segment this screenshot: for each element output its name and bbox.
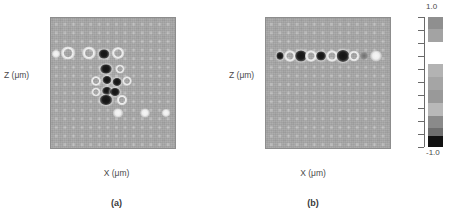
colorbar-track bbox=[428, 17, 443, 147]
field-feature bbox=[122, 76, 132, 86]
x-axis-title-a: X (μm) bbox=[0, 168, 233, 178]
colorbar-segment bbox=[428, 29, 443, 42]
colorbar-segment bbox=[428, 17, 443, 29]
x-axis-title-b: X (μm) bbox=[233, 168, 393, 178]
field-feature bbox=[115, 65, 125, 74]
noise-texture bbox=[266, 18, 390, 148]
heatmap-plot-a: 5 4 3 2 1 0 -1 -2 -3 -4 -5 -5 -4 -3 -2 -… bbox=[50, 17, 176, 149]
field-feature bbox=[82, 46, 97, 59]
panel-b: 5 4 3 2 1 0 -1 -2 -3 -4 -5 -5 -4 -3 -2 -… bbox=[233, 0, 393, 221]
colorbar-segment bbox=[428, 136, 443, 147]
colorbar: 1.0 -1.0 bbox=[404, 0, 465, 221]
field-feature bbox=[276, 52, 283, 60]
field-feature bbox=[100, 64, 112, 73]
colorbar-segment bbox=[428, 77, 443, 90]
field-feature bbox=[140, 108, 150, 117]
field-feature bbox=[60, 46, 76, 59]
field-feature bbox=[99, 95, 112, 105]
colorbar-segment bbox=[428, 42, 443, 64]
colorbar-axis-line bbox=[424, 17, 425, 147]
field-feature bbox=[116, 94, 127, 105]
figure-container: 5 4 3 2 1 0 -1 -2 -3 -4 -5 -5 -4 -3 -2 -… bbox=[0, 0, 465, 221]
subcaption-b: (b) bbox=[233, 198, 393, 208]
field-feature bbox=[112, 78, 121, 86]
colorbar-segment bbox=[428, 116, 443, 128]
field-feature bbox=[162, 109, 171, 117]
colorbar-min-label: -1.0 bbox=[426, 149, 440, 157]
field-feature bbox=[360, 52, 368, 60]
colorbar-segment bbox=[428, 103, 443, 116]
field-feature bbox=[112, 108, 123, 117]
heatmap-plot-b: 5 4 3 2 1 0 -1 -2 -3 -4 -5 -5 -4 -3 -2 -… bbox=[265, 17, 391, 149]
field-feature bbox=[102, 76, 111, 84]
y-axis-title-a: Z (μm) bbox=[4, 70, 29, 80]
field-feature bbox=[316, 51, 326, 60]
field-feature bbox=[111, 47, 125, 59]
colorbar-max-label: 1.0 bbox=[426, 3, 437, 11]
field-feature bbox=[348, 50, 360, 61]
field-feature bbox=[91, 88, 101, 97]
colorbar-segment bbox=[428, 128, 443, 136]
colorbar-segment bbox=[428, 90, 443, 103]
field-feature bbox=[52, 50, 61, 58]
field-feature bbox=[90, 76, 101, 86]
panel-a: 5 4 3 2 1 0 -1 -2 -3 -4 -5 -5 -4 -3 -2 -… bbox=[0, 0, 233, 221]
colorbar-segment bbox=[428, 64, 443, 77]
field-feature bbox=[370, 50, 382, 61]
subcaption-a: (a) bbox=[0, 198, 233, 208]
y-axis-title-b: Z (μm) bbox=[229, 70, 254, 80]
field-feature bbox=[99, 50, 110, 59]
